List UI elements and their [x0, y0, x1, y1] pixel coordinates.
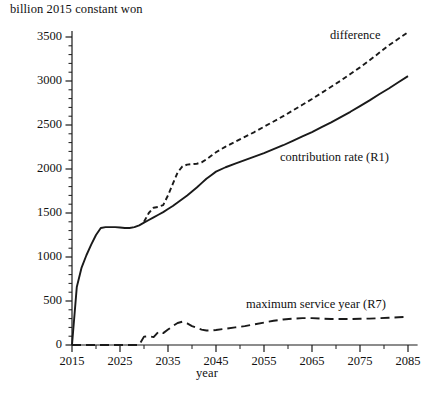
y-tick-label: 1500	[18, 205, 62, 220]
y-tick-label: 2000	[18, 161, 62, 176]
x-tick-label: 2055	[240, 354, 288, 369]
x-tick-label: 2045	[192, 354, 240, 369]
y-tick-label: 500	[18, 293, 62, 308]
x-tick-label: 2065	[288, 354, 336, 369]
x-tick-label: 2075	[336, 354, 384, 369]
y-tick-label: 2500	[18, 117, 62, 132]
x-tick-label: 2035	[144, 354, 192, 369]
series-line-2	[72, 317, 408, 345]
y-axis-title: billion 2015 constant won	[10, 2, 143, 17]
plot-area	[0, 0, 434, 404]
series-label-maximum-service-year: maximum service year (R7)	[246, 297, 386, 312]
chart-figure: billion 2015 constant won year differenc…	[0, 0, 434, 404]
y-tick-label: 1000	[18, 249, 62, 264]
x-tick-label: 2085	[384, 354, 432, 369]
y-tick-label: 0	[18, 337, 62, 352]
series-label-contribution-rate: contribution rate (R1)	[280, 150, 389, 165]
series-label-difference: difference	[330, 28, 380, 43]
y-tick-label: 3000	[18, 73, 62, 88]
y-tick-label: 3500	[18, 29, 62, 44]
series-line-1	[144, 32, 408, 222]
x-tick-label: 2015	[48, 354, 96, 369]
x-tick-label: 2025	[96, 354, 144, 369]
